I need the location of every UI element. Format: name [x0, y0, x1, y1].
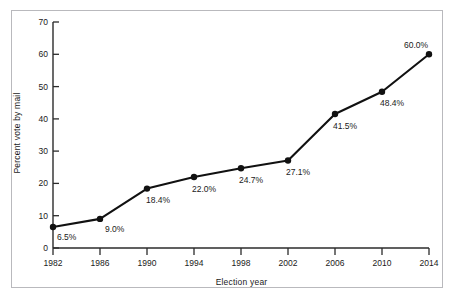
data-label: 41.5% — [333, 121, 357, 131]
x-tick-label: 2014 — [409, 258, 449, 268]
data-point — [144, 185, 150, 191]
series-markers — [50, 51, 432, 230]
y-tick-label: 70 — [22, 17, 48, 27]
y-tick-marks — [53, 22, 59, 248]
y-tick-label: 10 — [22, 211, 48, 221]
x-tick-marks — [53, 248, 429, 255]
x-tick-label: 2002 — [268, 258, 308, 268]
y-tick-label: 50 — [22, 82, 48, 92]
y-tick-label: 20 — [22, 178, 48, 188]
y-axis-title: Percent vote by mail — [12, 73, 22, 193]
y-tick-label: 30 — [22, 146, 48, 156]
data-label: 60.0% — [404, 40, 428, 50]
data-point — [191, 174, 197, 180]
data-label: 48.4% — [380, 98, 404, 108]
data-point — [379, 89, 385, 95]
data-point — [332, 111, 338, 117]
data-label: 18.4% — [146, 195, 170, 205]
y-tick-label: 0 — [22, 243, 48, 253]
x-tick-label: 1994 — [174, 258, 214, 268]
data-label: 27.1% — [286, 167, 310, 177]
x-tick-label: 1998 — [221, 258, 261, 268]
data-label: 6.5% — [57, 232, 76, 242]
line-chart: Percent vote by mail Election year 0 10 … — [0, 0, 453, 306]
chart-page: Percent vote by mail Election year 0 10 … — [0, 0, 453, 306]
data-label: 9.0% — [105, 224, 124, 234]
data-point — [50, 224, 56, 230]
x-tick-label: 2006 — [315, 258, 355, 268]
data-label: 24.7% — [239, 175, 263, 185]
x-tick-label: 1982 — [33, 258, 73, 268]
data-point — [285, 157, 291, 163]
y-tick-label: 60 — [22, 49, 48, 59]
data-point — [97, 216, 103, 222]
series-line — [53, 54, 429, 227]
x-tick-label: 2010 — [362, 258, 402, 268]
x-tick-label: 1990 — [127, 258, 167, 268]
data-point — [238, 165, 244, 171]
y-tick-label: 40 — [22, 114, 48, 124]
x-axis-title: Election year — [53, 277, 430, 287]
x-tick-label: 1986 — [80, 258, 120, 268]
data-point — [426, 51, 432, 57]
data-label: 22.0% — [192, 184, 216, 194]
